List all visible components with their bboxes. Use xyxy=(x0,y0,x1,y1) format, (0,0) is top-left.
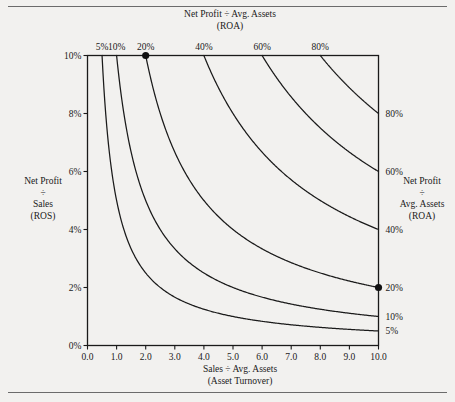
iso-roa-curve-60 xyxy=(262,56,378,172)
iso-roa-curve-10 xyxy=(117,56,379,317)
right-tick-label: 80% xyxy=(386,109,403,119)
x-tick-label: 1.0 xyxy=(111,352,123,362)
x-tick-label: 8.0 xyxy=(314,352,326,362)
right-tick-label: 60% xyxy=(386,167,403,177)
y-tick-label: 6% xyxy=(48,167,82,177)
right-tick-label: 20% xyxy=(386,283,403,293)
marker-top xyxy=(142,52,149,59)
axis-tick-marks xyxy=(84,56,379,350)
x-tick-label: 6.0 xyxy=(256,352,268,362)
right-tick-label: 10% xyxy=(386,312,403,322)
iso-roa-curve-40 xyxy=(204,56,379,230)
x-tick-label: 7.0 xyxy=(285,352,297,362)
top-tick-label: 80% xyxy=(312,42,329,52)
plot-frame xyxy=(88,56,379,346)
marker-right xyxy=(375,284,382,291)
right-tick-label: 5% xyxy=(386,326,399,336)
right-tick-label: 40% xyxy=(386,225,403,235)
top-tick-label: 5% xyxy=(96,42,109,52)
y-tick-label: 8% xyxy=(48,109,82,119)
y-tick-label: 10% xyxy=(48,51,82,61)
top-tick-label: 20% xyxy=(137,42,154,52)
x-tick-label: 0.0 xyxy=(82,352,94,362)
y-tick-label: 4% xyxy=(48,225,82,235)
y-tick-label: 2% xyxy=(48,283,82,293)
chart-page: Net Profit ÷ Avg. Assets (ROA) Sales ÷ A… xyxy=(0,0,455,402)
x-tick-label: 2.0 xyxy=(140,352,152,362)
x-tick-label: 9.0 xyxy=(343,352,355,362)
top-tick-label: 10% xyxy=(108,42,125,52)
data-point-markers xyxy=(142,52,382,291)
top-tick-label: 60% xyxy=(253,42,270,52)
y-tick-label: 0% xyxy=(48,341,82,351)
top-tick-label: 40% xyxy=(195,42,212,52)
x-tick-label: 5.0 xyxy=(227,352,239,362)
x-tick-label: 4.0 xyxy=(198,352,210,362)
x-tick-label: 10.0 xyxy=(370,352,387,362)
plot-border xyxy=(88,56,379,346)
iso-roa-curves xyxy=(102,56,378,332)
x-tick-label: 3.0 xyxy=(169,352,181,362)
iso-roa-curve-80 xyxy=(320,56,378,114)
iso-roa-curve-20 xyxy=(146,56,379,288)
